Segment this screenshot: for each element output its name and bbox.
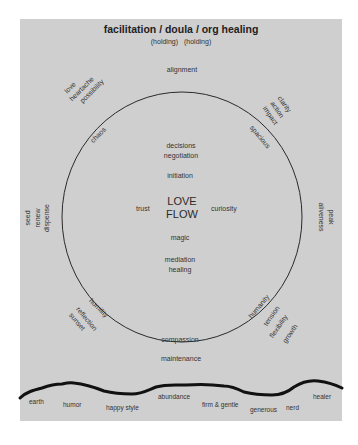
inner-top-stack: decisions negotiation xyxy=(164,141,198,161)
label-dispense: dispense xyxy=(42,198,52,238)
label-mediation: mediation xyxy=(165,255,195,265)
right-outer-stack: peak aliveness xyxy=(317,199,336,235)
left-seed-stack: seed renew dispense xyxy=(23,198,52,238)
ground-label-humor: humor xyxy=(63,401,81,409)
subtitle: (holding) (holding) xyxy=(151,38,211,45)
label-decisions: decisions xyxy=(164,141,198,151)
ground-label-abundance: abundance xyxy=(158,393,190,401)
label-compassion: compassion xyxy=(161,336,198,344)
label-renew: renew xyxy=(33,198,43,238)
ground-label-earth: earth xyxy=(29,398,44,406)
ground-label-happy-style: happy style xyxy=(106,404,139,412)
label-negotiation: negotiation xyxy=(164,151,198,161)
ground-label-healer: healer xyxy=(313,393,331,401)
label-maintenance: maintenance xyxy=(161,355,201,363)
label-healing: healing xyxy=(165,265,195,275)
subtitle-holding-2: (holding) xyxy=(184,38,211,45)
love-flow-center: LOVE FLOW xyxy=(166,195,198,221)
label-magic: magic xyxy=(171,234,190,242)
ground-label-nerd: nerd xyxy=(286,404,299,412)
label-peak: peak xyxy=(327,199,337,235)
label-seed: seed xyxy=(23,198,33,238)
label-curiosity: curiosity xyxy=(211,205,237,213)
label-alignment: alignment xyxy=(167,66,197,74)
subtitle-holding-1: (holding) xyxy=(151,38,178,45)
label-initiation: initiation xyxy=(167,172,193,180)
label-trust: trust xyxy=(136,205,150,213)
label-love-center: LOVE xyxy=(166,195,198,208)
label-aliveness: aliveness xyxy=(317,199,327,235)
label-flow-center: FLOW xyxy=(166,208,198,221)
ground-label-generous: generous xyxy=(250,406,277,414)
ground-label-firm-gentle: firm & gentle xyxy=(202,401,239,409)
diagram-title: facilitation / doula / org healing xyxy=(104,23,259,35)
inner-bottom-stack: mediation healing xyxy=(165,255,195,275)
